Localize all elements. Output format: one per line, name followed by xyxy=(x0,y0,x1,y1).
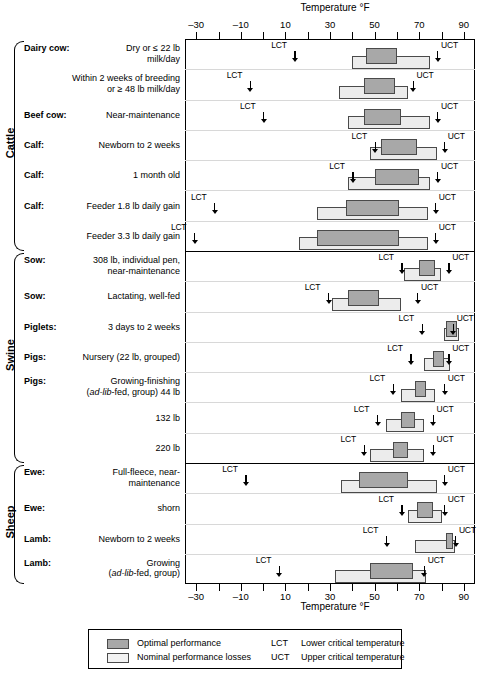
lct-label: LCT xyxy=(341,434,356,444)
axis-tick xyxy=(397,584,398,591)
row-label-detail-2: milk/day xyxy=(147,54,180,64)
uct-label: UCT xyxy=(441,161,458,171)
row-label-detail: Near-maintenance xyxy=(106,110,180,120)
row-divider xyxy=(185,221,475,222)
axis-title-top: Temperature °F xyxy=(265,2,405,13)
axis-tick xyxy=(263,32,264,39)
legend: Optimal performance Nominal performance … xyxy=(88,629,402,669)
bar-optimal xyxy=(348,290,379,306)
uct-label: UCT xyxy=(448,373,465,383)
uct-label: UCT xyxy=(437,434,454,444)
group-name-swine: Swine xyxy=(4,327,16,383)
axis-tick-label: 30 xyxy=(315,19,345,30)
uct-label: UCT xyxy=(459,525,476,535)
axis-tick xyxy=(464,32,465,39)
lct-label: LCT xyxy=(363,525,378,535)
row-divider xyxy=(185,402,475,403)
axis-tick xyxy=(330,584,331,591)
lct-label: LCT xyxy=(387,343,402,353)
bar-optimal xyxy=(417,502,433,518)
row-label: 132 lb xyxy=(24,413,180,424)
row-label-detail: 132 lb xyxy=(155,413,180,423)
axis-tick xyxy=(330,32,331,39)
lct-label: LCT xyxy=(222,464,237,474)
uct-label: UCT xyxy=(457,313,474,323)
axis-tick xyxy=(442,584,443,591)
group-name-sheep: Sheep xyxy=(4,494,16,550)
row-label-lead: Pigs: xyxy=(24,352,46,363)
axis-tick-label: –30 xyxy=(181,591,211,602)
axis-tick xyxy=(352,584,353,591)
row-label-lead: Lamb: xyxy=(24,534,51,545)
row-label-detail: 220 lb xyxy=(155,443,180,453)
bar-optimal xyxy=(375,169,420,185)
row-label: Lamb:Growing(ad-lib-fed, group) xyxy=(24,558,180,579)
axis-tick xyxy=(375,584,376,591)
row-label: Pigs:Nursery (22 lb, grouped) xyxy=(24,352,180,363)
uct-label: UCT xyxy=(452,343,469,353)
axis-tick-label: –10 xyxy=(226,19,256,30)
group-divider xyxy=(185,251,475,252)
bar-optimal xyxy=(381,139,417,155)
row-divider xyxy=(185,312,475,313)
bar-optimal xyxy=(346,200,400,216)
row-label-detail-2: near-maintenance xyxy=(107,266,180,276)
row-divider xyxy=(185,100,475,101)
row-label-lead: Sow: xyxy=(24,255,46,266)
uct-label: UCT xyxy=(448,464,465,474)
legend-label-lct: Lower critical temperature xyxy=(301,638,405,648)
axis-tick xyxy=(397,32,398,39)
row-label-lead: Calf: xyxy=(24,140,44,151)
row-label-lead: Pigs: xyxy=(24,376,46,387)
row-label: Sow:308 lb, individual pen,near-maintena… xyxy=(24,255,180,276)
uct-label: UCT xyxy=(441,101,458,111)
row-divider xyxy=(185,130,475,131)
axis-tick-label: –10 xyxy=(226,591,256,602)
row-label-detail: Growing-finishing xyxy=(110,376,180,386)
axis-tick xyxy=(285,32,286,39)
axis-tick xyxy=(196,32,197,39)
legend-swatch-optimal xyxy=(107,639,129,649)
uct-label: UCT xyxy=(428,555,445,565)
axis-tick-label: 90 xyxy=(449,19,479,30)
row-label-detail-2: maintenance xyxy=(128,478,180,488)
legend-label-nominal: Nominal performance losses xyxy=(137,652,251,662)
lct-label: LCT xyxy=(256,555,271,565)
row-label-detail: Newborn to 2 weeks xyxy=(98,140,180,150)
bar-optimal xyxy=(370,563,412,579)
axis-title-bottom: Temperature °F xyxy=(265,601,405,612)
axis-tick xyxy=(464,584,465,591)
row-divider xyxy=(185,372,475,373)
lct-label: LCT xyxy=(378,494,393,504)
lct-label: LCT xyxy=(227,70,242,80)
row-label: Dairy cow:Dry or ≤ 22 lbmilk/day xyxy=(24,43,180,64)
row-label-detail: shorn xyxy=(157,503,180,513)
row-label-detail: Dry or ≤ 22 lb xyxy=(126,43,180,53)
row-label: Sow:Lactating, well-fed xyxy=(24,291,180,302)
row-label: Calf:1 month old xyxy=(24,170,180,181)
uct-label: UCT xyxy=(439,222,456,232)
row-divider xyxy=(185,433,475,434)
axis-tick xyxy=(308,584,309,591)
legend-label-optimal: Optimal performance xyxy=(137,638,221,648)
axis-tick xyxy=(241,584,242,591)
axis-tick xyxy=(219,584,220,591)
axis-tick xyxy=(308,32,309,39)
row-label: 220 lb xyxy=(24,443,180,454)
uct-label: UCT xyxy=(452,252,469,262)
row-label: Pigs:Growing-finishing(ad-lib-fed, group… xyxy=(24,376,180,397)
axis-tick-label: 90 xyxy=(449,591,479,602)
row-label-lead: Piglets: xyxy=(24,322,57,333)
lct-label: LCT xyxy=(399,313,414,323)
bar-optimal xyxy=(433,351,444,367)
row-label-detail: Feeder 1.8 lb daily gain xyxy=(86,201,180,211)
axis-tick xyxy=(419,584,420,591)
row-label-detail: 308 lb, individual pen, xyxy=(93,255,180,265)
uct-label: UCT xyxy=(448,494,465,504)
row-label: Calf:Feeder 1.8 lb daily gain xyxy=(24,201,180,212)
row-label-detail: Growing xyxy=(146,558,180,568)
row-label: Within 2 weeks of breedingor ≥ 48 lb mil… xyxy=(24,73,180,94)
row-label-detail-2: (ad-lib-fed, group) xyxy=(108,568,180,578)
legend-abbr-uct: UCT xyxy=(271,652,290,662)
row-label-detail-2: or ≥ 48 lb milk/day xyxy=(107,84,180,94)
